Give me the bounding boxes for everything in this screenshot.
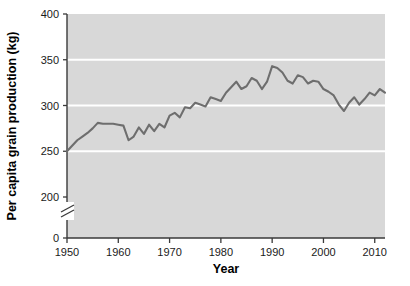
x-tick-label: 1980	[209, 246, 233, 258]
x-tick-label: 2010	[362, 246, 386, 258]
grain-production-line-chart: 0200250300350400 19501960197019801990200…	[0, 0, 410, 286]
x-tick-label: 1960	[106, 246, 130, 258]
chart-figure: 0200250300350400 19501960197019801990200…	[0, 0, 410, 286]
y-tick-label: 200	[41, 191, 59, 203]
y-axis-title: Per capita grain production (kg)	[5, 32, 19, 221]
y-tick-label: 250	[41, 145, 59, 157]
plot-area-background	[67, 14, 385, 238]
x-tick-label: 1950	[55, 246, 79, 258]
y-tick-label: 300	[41, 100, 59, 112]
y-tick-label: 0	[53, 232, 59, 244]
x-tick-label: 1990	[260, 246, 284, 258]
x-axis-title: Year	[213, 262, 240, 276]
x-tick-label: 1970	[157, 246, 181, 258]
axis-break-zigzag-icon	[61, 202, 74, 220]
x-tick-label: 2000	[311, 246, 335, 258]
y-tick-label: 400	[41, 8, 59, 20]
y-tick-label: 350	[41, 54, 59, 66]
